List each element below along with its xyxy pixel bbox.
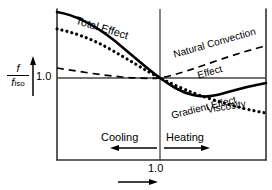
y-axis-tick-label-1: 1.0 (36, 71, 51, 82)
cooling-region-label: Cooling (101, 132, 138, 143)
x-axis-arrow-icon (118, 179, 158, 185)
heating-arrow-icon (164, 145, 210, 151)
y-axis-label-denominator-subscript: iso (14, 79, 24, 88)
y-axis-label-numerator: f (4, 63, 32, 75)
chart-figure: f fiso 1.0 1.0 Cooling Heating Total Eff… (0, 0, 272, 190)
cooling-arrow-icon (110, 145, 157, 151)
x-axis-tick-label-1: 1.0 (148, 163, 163, 174)
y-axis-label: f fiso (4, 63, 32, 88)
series-natural-convection-effect (57, 46, 266, 78)
heating-region-label: Heating (166, 132, 204, 143)
y-axis-label-denominator: fiso (4, 76, 32, 88)
